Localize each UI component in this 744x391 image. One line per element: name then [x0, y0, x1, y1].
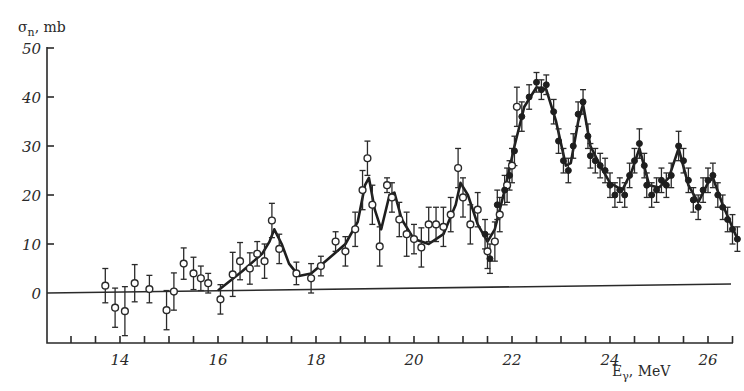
open-circle-point: [261, 258, 268, 265]
x-tick-label: 20: [403, 351, 424, 369]
open-circle-point: [364, 155, 371, 162]
filled-circle-point: [641, 163, 647, 169]
filled-circle-point: [734, 236, 740, 242]
filled-circle-point: [644, 182, 650, 188]
cross-section-chart: 0102030405014161820222426 σn, mb Eγ, MeV: [0, 0, 744, 391]
filled-circle-point: [556, 138, 562, 144]
y-tick-label: 20: [21, 187, 42, 205]
filled-circle-point: [592, 158, 598, 164]
open-circle-point: [389, 194, 396, 201]
x-tick-label: 18: [306, 351, 325, 369]
filled-circle-point: [649, 192, 655, 198]
axis-titles: σn, mb Eγ, MeV: [18, 19, 671, 383]
filled-circle-point: [617, 187, 623, 193]
filled-circle-point: [663, 182, 669, 188]
open-circle-point: [403, 231, 410, 238]
x-tick-label: 14: [110, 351, 129, 369]
filled-circle-point: [538, 87, 544, 93]
open-circle-point: [369, 201, 376, 208]
y-title-symbol: σ: [18, 19, 28, 35]
filled-circle-point: [668, 172, 674, 178]
filled-circle-point: [511, 148, 517, 154]
open-circle-point: [496, 211, 503, 218]
filled-circle-point: [587, 153, 593, 159]
open-circle-point: [332, 238, 339, 245]
filled-circle-point: [720, 204, 726, 210]
y-title-subscript: n: [28, 26, 35, 39]
open-circle-point: [425, 221, 432, 228]
filled-circle-point: [705, 177, 711, 183]
error-bars: [102, 73, 740, 336]
x-tick-label: 16: [208, 351, 228, 369]
open-circle-point: [433, 221, 440, 228]
x-tick-label: 26: [697, 351, 718, 369]
open-circle-point: [342, 248, 349, 255]
open-circle-point: [352, 226, 359, 233]
open-circle-point: [102, 282, 109, 289]
y-tick-label: 50: [22, 40, 42, 58]
open-circle-point: [269, 217, 276, 224]
filled-circle-point: [507, 172, 513, 178]
filled-circle-point: [580, 99, 586, 105]
filled-circle-point: [632, 158, 638, 164]
filled-circle-point: [715, 192, 721, 198]
filled-circle-point: [560, 158, 566, 164]
y-tick-label: 10: [22, 236, 42, 254]
y-axis-title: σn, mb: [18, 19, 66, 39]
open-circle-point: [440, 223, 447, 230]
open-circle-point: [467, 221, 474, 228]
x-tick-label: 22: [501, 351, 521, 369]
open-circle-point: [396, 216, 403, 223]
open-circle-point: [384, 182, 391, 189]
filled-circle-point: [551, 109, 557, 115]
open-circle-point: [217, 296, 224, 303]
filled-circle-point: [612, 192, 618, 198]
filled-circle-point: [658, 177, 664, 183]
filled-circle-point: [487, 256, 493, 262]
open-circle-point: [171, 288, 178, 295]
filled-circle-point: [575, 111, 581, 117]
open-circle-point: [359, 187, 366, 194]
filled-circle-point: [654, 187, 660, 193]
filled-circle-point: [482, 231, 488, 237]
open-circle-point: [318, 263, 325, 270]
open-circle-point: [190, 270, 197, 277]
filled-circle-point: [725, 217, 731, 223]
open-circle-point: [146, 286, 153, 293]
filled-circle-point: [519, 114, 525, 120]
filled-circle-point: [526, 94, 532, 100]
open-circle-point: [246, 265, 253, 272]
open-circle-point: [455, 165, 462, 172]
filled-circle-point: [585, 133, 591, 139]
open-circle-point: [122, 308, 129, 315]
open-circle-point: [254, 250, 261, 257]
open-circle-point: [474, 206, 481, 213]
open-circle-point: [112, 304, 119, 311]
filled-circle-point: [622, 192, 628, 198]
open-circle-point: [229, 271, 236, 278]
open-circle-point: [197, 275, 204, 282]
y-title-unit: , mb: [35, 19, 66, 35]
open-circle-point: [293, 270, 300, 277]
open-circle-point: [237, 258, 244, 265]
filled-circle-point: [543, 82, 549, 88]
open-circle-point: [509, 162, 516, 169]
filled-circle-point: [700, 187, 706, 193]
filled-circle-point: [494, 202, 500, 208]
filled-circle-point: [690, 197, 696, 203]
open-circle-point: [484, 248, 491, 255]
open-circle-point: [308, 275, 315, 282]
open-circle-point: [205, 280, 212, 287]
x-axis-title: Eγ, MeV: [612, 363, 671, 383]
open-circle-point: [418, 244, 425, 251]
filled-circle-point: [681, 158, 687, 164]
open-circle-point: [276, 246, 283, 253]
open-circle-point: [447, 211, 454, 218]
open-circle-point: [376, 243, 383, 250]
filled-circle-point: [502, 187, 508, 193]
open-circle-point: [131, 280, 138, 287]
filled-circle-point: [534, 79, 540, 85]
y-tick-label: 40: [21, 89, 42, 107]
filled-circle-point: [602, 168, 608, 174]
open-circle-point: [163, 307, 170, 314]
